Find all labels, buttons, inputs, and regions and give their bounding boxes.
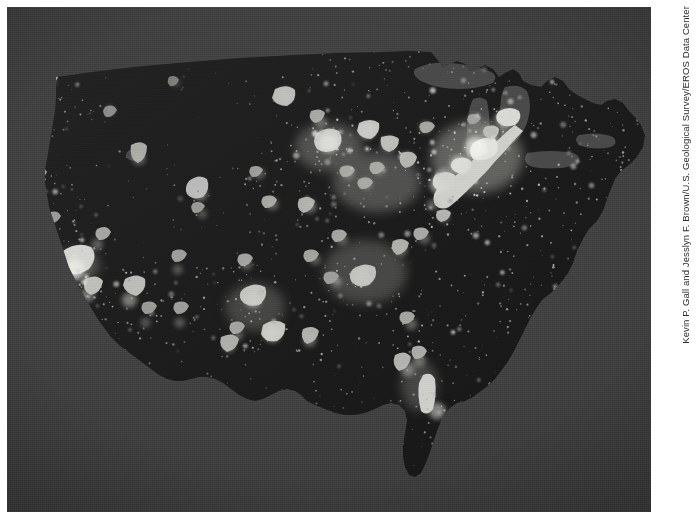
settlement-light <box>577 80 579 82</box>
settlement-light <box>614 314 615 315</box>
settlement-light <box>293 152 299 158</box>
settlement-light <box>366 301 371 306</box>
settlement-light <box>174 226 175 227</box>
settlement-light <box>480 464 482 466</box>
settlement-light <box>276 181 278 183</box>
settlement-light <box>460 401 461 402</box>
settlement-light <box>272 319 276 323</box>
settlement-light <box>628 54 629 55</box>
settlement-light <box>286 122 288 124</box>
settlement-light <box>556 354 558 356</box>
settlement-light <box>503 285 505 287</box>
settlement-light <box>519 452 521 454</box>
settlement-light <box>419 475 420 476</box>
settlement-light <box>627 236 629 238</box>
city-halo <box>99 49 109 59</box>
settlement-light <box>275 234 277 236</box>
settlement-light <box>222 267 224 269</box>
settlement-light <box>117 322 118 323</box>
settlement-light <box>395 259 396 260</box>
settlement-light <box>408 66 410 68</box>
settlement-light <box>167 174 168 175</box>
city-halo <box>303 200 316 213</box>
settlement-light <box>604 150 605 151</box>
settlement-light <box>203 297 205 299</box>
settlement-light <box>30 82 32 84</box>
settlement-light <box>546 355 548 357</box>
settlement-light <box>391 301 392 302</box>
settlement-light <box>133 197 134 198</box>
settlement-light <box>316 141 317 142</box>
settlement-light <box>593 130 595 132</box>
settlement-light <box>26 56 27 57</box>
settlement-light <box>561 439 563 441</box>
settlement-light <box>506 146 511 151</box>
settlement-light <box>190 323 192 325</box>
settlement-light <box>482 155 485 158</box>
settlement-light <box>258 230 260 232</box>
settlement-light <box>203 308 205 310</box>
settlement-light <box>509 138 511 140</box>
settlement-light <box>343 192 345 194</box>
settlement-light <box>484 467 486 469</box>
settlement-light <box>424 249 426 251</box>
settlement-light <box>53 129 54 130</box>
settlement-light <box>405 127 407 129</box>
settlement-light <box>370 282 371 283</box>
settlement-light <box>69 357 71 359</box>
settlement-light <box>528 317 529 318</box>
settlement-light <box>357 178 358 179</box>
settlement-light <box>171 299 172 300</box>
settlement-light <box>524 51 527 54</box>
settlement-light <box>315 164 317 166</box>
settlement-light <box>494 82 496 84</box>
settlement-light <box>38 351 40 353</box>
settlement-light <box>438 411 441 414</box>
settlement-light <box>581 485 585 489</box>
settlement-light <box>80 404 81 405</box>
settlement-light <box>389 70 391 72</box>
settlement-light <box>525 56 527 58</box>
settlement-light <box>631 416 633 418</box>
settlement-light <box>419 182 421 184</box>
settlement-light <box>336 233 337 234</box>
settlement-light <box>381 263 382 264</box>
settlement-light <box>225 296 226 297</box>
settlement-light <box>591 387 596 392</box>
settlement-light <box>600 90 602 92</box>
settlement-light <box>451 71 453 73</box>
settlement-light <box>305 258 306 259</box>
settlement-light <box>598 139 599 140</box>
settlement-light <box>18 129 19 130</box>
settlement-light <box>431 324 433 326</box>
settlement-light <box>320 163 322 165</box>
settlement-light <box>84 49 85 50</box>
settlement-light <box>424 431 426 433</box>
settlement-light <box>550 64 552 66</box>
settlement-light <box>544 333 546 335</box>
settlement-light <box>114 239 116 241</box>
settlement-light <box>370 148 371 149</box>
settlement-light <box>344 57 346 59</box>
settlement-light <box>525 217 526 218</box>
settlement-light <box>321 240 323 242</box>
settlement-light <box>421 446 422 447</box>
settlement-light <box>120 250 121 251</box>
settlement-light <box>629 331 630 332</box>
settlement-light <box>443 477 445 479</box>
settlement-light <box>316 156 318 158</box>
settlement-light <box>599 55 601 57</box>
settlement-light <box>506 216 507 217</box>
settlement-light <box>316 151 318 153</box>
settlement-light <box>217 304 218 305</box>
settlement-light <box>103 64 105 66</box>
settlement-light <box>80 205 83 208</box>
city-halo <box>465 137 486 158</box>
settlement-light <box>558 293 560 295</box>
settlement-light <box>254 310 256 312</box>
settlement-light <box>194 445 196 447</box>
settlement-light <box>447 324 449 326</box>
settlement-light <box>250 378 251 379</box>
settlement-light <box>119 338 120 339</box>
settlement-light <box>223 212 224 213</box>
